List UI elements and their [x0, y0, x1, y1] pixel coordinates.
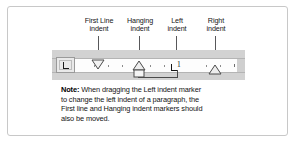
ruler-tick-major — [234, 64, 235, 67]
first-line-indent-marker[interactable] — [91, 56, 105, 67]
callout-right-indent: Right indent — [197, 17, 235, 34]
ruler-tick — [108, 65, 109, 67]
callout-left-indent: Left indent — [158, 17, 196, 34]
ruler-tick — [164, 65, 165, 67]
ruler-tick — [150, 65, 151, 67]
callout-left-indent-line2: indent — [158, 25, 196, 33]
note-text-line1: When dragging the Left indent marker — [81, 85, 201, 94]
callout-hanging-indent-line2: indent — [118, 25, 162, 33]
left-tab-stop-icon — [63, 62, 69, 69]
ruler-right-margin-zone — [237, 58, 245, 73]
ruler-number-1: 1 — [177, 61, 181, 69]
left-indent-connector-line — [138, 77, 178, 78]
left-indent-marker[interactable] — [171, 64, 177, 71]
down-triangle-icon — [91, 59, 105, 70]
note-line-2: to change the left indent of a paragraph… — [61, 95, 251, 105]
note-line-1: Note: When dragging the Left indent mark… — [61, 85, 251, 95]
hanging-indent-marker[interactable] — [132, 60, 146, 78]
left-indent-connector-stem — [177, 70, 178, 78]
ruler-tick — [206, 65, 207, 67]
note-line-4: also be moved. — [61, 114, 251, 124]
indent-markers-figure: First Line indent Hanging indent Left in… — [0, 0, 296, 144]
callout-right-indent-line2: indent — [197, 25, 235, 33]
note-block: Note: When dragging the Left indent mark… — [61, 85, 251, 123]
callout-hanging-indent: Hanging indent — [118, 17, 162, 34]
ruler-band-top — [52, 50, 245, 58]
note-label: Note: — [61, 85, 79, 94]
up-triangle-icon — [208, 64, 222, 75]
ruler-tick — [122, 65, 123, 67]
tab-stop-selector-button[interactable] — [56, 57, 75, 73]
up-triangle-with-box-icon — [132, 60, 146, 78]
right-indent-marker[interactable] — [208, 61, 222, 72]
note-line-3: First line and Hanging indent markers sh… — [61, 104, 251, 114]
callout-first-line-indent: First Line indent — [75, 17, 123, 34]
callout-first-line-indent-line2: indent — [75, 25, 123, 33]
